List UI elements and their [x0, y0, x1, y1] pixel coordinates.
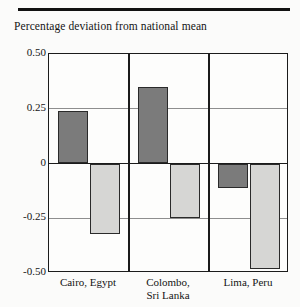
- gridline-1: [49, 108, 287, 109]
- x-category-label-1: Colombo,Sri Lanka: [128, 276, 208, 302]
- y-tick-label-0: 0.50: [2, 47, 46, 58]
- x-category-label-0-line-0: Cairo, Egypt: [60, 276, 116, 288]
- x-category-label-0: Cairo, Egypt: [48, 276, 128, 289]
- y-tick-label-4: -0.50: [2, 266, 46, 277]
- bar-light-2: [250, 164, 280, 269]
- y-tick-label-3: -0.25: [2, 211, 46, 222]
- x-category-label-1-line-1: Sri Lanka: [128, 289, 208, 302]
- x-category-label-2-line-0: Lima, Peru: [224, 276, 273, 288]
- y-axis-labels: 0.50 0.25 0 -0.25 -0.50: [0, 53, 46, 272]
- bar-dark-1: [138, 87, 168, 164]
- x-category-label-2: Lima, Peru: [208, 276, 288, 289]
- panel-divider-2: [208, 54, 209, 271]
- y-tick-label-1: 0.25: [2, 102, 46, 113]
- y-tick-label-2: 0: [2, 157, 46, 168]
- top-rule: [18, 8, 290, 11]
- bar-light-0: [90, 164, 120, 234]
- bar-light-1: [170, 164, 200, 219]
- plot-area: [48, 53, 288, 272]
- x-category-label-1-line-0: Colombo,: [146, 276, 190, 288]
- chart-title: Percentage deviation from national mean: [14, 20, 207, 32]
- bar-dark-2: [218, 164, 248, 188]
- x-axis-labels: Cairo, EgyptColombo,Sri LankaLima, Peru: [48, 276, 288, 306]
- panel-divider-1: [128, 54, 129, 271]
- bar-dark-0: [58, 111, 88, 164]
